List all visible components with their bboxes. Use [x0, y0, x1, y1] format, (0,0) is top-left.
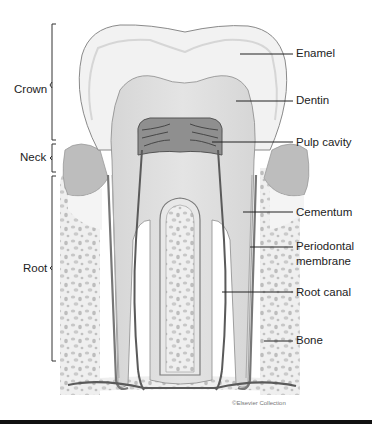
label-bone: Bone: [296, 334, 323, 347]
label-periodontal-line1: Periodontal: [296, 240, 354, 253]
label-cementum: Cementum: [296, 206, 352, 219]
label-root: Root: [23, 262, 47, 275]
bottom-divider: [0, 420, 372, 424]
pulp-cavity: [138, 118, 223, 155]
left-brackets: [50, 24, 56, 361]
label-periodontal-line2: membrane: [296, 255, 351, 268]
label-enamel: Enamel: [296, 47, 335, 60]
label-dentin: Dentin: [296, 94, 329, 107]
label-neck: Neck: [20, 151, 46, 164]
label-crown: Crown: [14, 83, 47, 96]
label-root-canal: Root canal: [296, 286, 351, 299]
label-pulp-cavity: Pulp cavity: [296, 136, 352, 149]
copyright-credit: ©Elsevier Collection: [232, 400, 286, 406]
